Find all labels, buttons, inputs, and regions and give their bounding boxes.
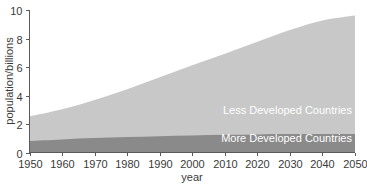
y-tick-label: 10 (10, 5, 22, 17)
chart-canvas: 0246810 19501960197019801990200020102020… (0, 0, 367, 190)
y-axis-title: population/billions (3, 37, 15, 125)
series-label-less-developed: Less Developed Countries (223, 104, 353, 116)
x-axis-title: year (181, 171, 203, 183)
population-area-chart: 0246810 19501960197019801990200020102020… (0, 0, 367, 190)
x-tick-label: 2000 (180, 158, 204, 170)
x-tick-label: 1960 (50, 158, 74, 170)
x-tick-labels: 1950196019701980199020002010202020302040… (18, 158, 367, 170)
x-tick-label: 2050 (343, 158, 367, 170)
x-tick-label: 1990 (148, 158, 172, 170)
x-tick-label: 2030 (278, 158, 302, 170)
series-label-more-developed: More Developed Countries (221, 132, 352, 144)
x-tick-label: 2020 (245, 158, 269, 170)
x-tick-label: 2010 (213, 158, 237, 170)
x-tick-label: 1980 (115, 158, 139, 170)
x-tick-label: 1970 (83, 158, 107, 170)
y-tick-label: 6 (16, 62, 22, 74)
y-tick-label: 4 (16, 91, 22, 103)
y-tick-label: 8 (16, 34, 22, 46)
y-tick-label: 2 (16, 119, 22, 131)
x-tick-label: 2040 (310, 158, 334, 170)
x-tick-label: 1950 (18, 158, 42, 170)
